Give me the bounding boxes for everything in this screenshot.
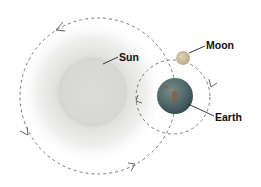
- orbit-arrow-icon: [209, 79, 217, 87]
- sun-label: Sun: [119, 52, 139, 63]
- moon: [176, 51, 190, 65]
- orbit-arrow-icon: [20, 127, 28, 135]
- moon-leader-line: [189, 46, 205, 53]
- orbit-arrow-icon: [128, 163, 135, 171]
- moon-label: Moon: [206, 40, 234, 51]
- earth: [157, 78, 193, 114]
- sun-earth-moon-diagram: Sun Moon Earth: [0, 0, 261, 187]
- earth-leader-line: [188, 104, 214, 116]
- sun: [20, 20, 164, 164]
- earth-label: Earth: [215, 112, 242, 123]
